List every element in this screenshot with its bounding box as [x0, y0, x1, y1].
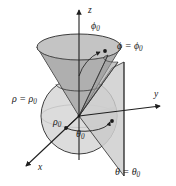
phi-angle-label: ϕ0	[91, 21, 100, 33]
phi-surface-equation-text: ϕ = ϕ	[117, 40, 139, 51]
z-axis-label: z	[88, 6, 92, 16]
spherical-coordinates-figure: z y x ϕ0 ϕ = ϕ0 ρ = ρ0 ρ0 θ0 θ = θ0	[0, 0, 176, 186]
theta-surface-equation-label: θ = θ0	[115, 167, 140, 179]
y-axis-label: y	[154, 90, 158, 100]
theta-surface-equation-text: θ = θ	[115, 166, 137, 177]
phi-surface-equation-label: ϕ = ϕ0	[117, 41, 143, 53]
rho-radius-label: ρ0	[53, 117, 61, 129]
theta-angle-label: θ0	[76, 129, 85, 141]
theta-surface-equation-subscript: 0	[137, 171, 141, 179]
rho-surface-equation-label: ρ = ρ0	[12, 94, 37, 106]
theta-angle-subscript: 0	[81, 133, 85, 141]
rho-surface-equation-text: ρ = ρ	[12, 93, 33, 104]
phi-angle-subscript: 0	[96, 25, 100, 33]
phi-surface-equation-subscript: 0	[139, 45, 143, 53]
phi-point-marker	[103, 49, 107, 53]
rho-surface-equation-subscript: 0	[33, 98, 37, 106]
rho-radius-subscript: 0	[58, 121, 62, 129]
theta-endpoint-marker	[110, 119, 114, 123]
origin-marker	[78, 115, 81, 118]
x-axis-label: x	[38, 163, 42, 173]
